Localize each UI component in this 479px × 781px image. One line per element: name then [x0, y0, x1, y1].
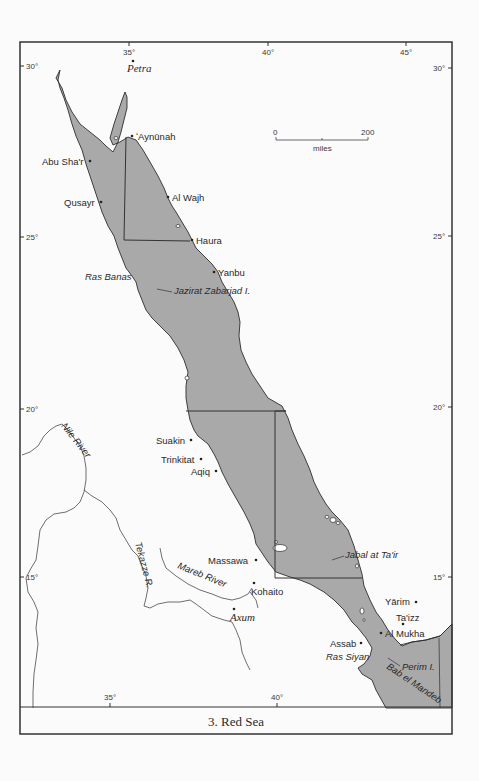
taizz-marker — [402, 623, 405, 626]
lat-tick-20-right: 20° — [433, 403, 445, 412]
lat-tick-30-right: 30° — [433, 64, 445, 73]
label-ras-banas: Ras Banas — [85, 271, 132, 282]
lat-tick-25-right: 25° — [433, 232, 445, 241]
label-al-mukha: Al Mukha — [385, 628, 425, 639]
label-yarim: Yārim — [385, 596, 410, 607]
island — [325, 516, 329, 519]
lat-tick-15-left: 15° — [26, 573, 38, 582]
lat-tick-30-left: 30° — [26, 62, 38, 71]
island — [114, 137, 118, 140]
lon-tick-40-bottom: 40° — [271, 693, 283, 702]
axum-marker — [233, 608, 236, 611]
label-petra: Petra — [126, 62, 152, 74]
assab-marker — [360, 642, 363, 645]
island — [363, 619, 365, 622]
scale-unit: miles — [313, 144, 332, 153]
lat-tick-15-right: 15° — [433, 573, 445, 582]
label-al-wajh: Al Wajh — [172, 192, 204, 203]
island — [356, 564, 359, 568]
lon-tick-35-bottom: 35° — [104, 693, 116, 702]
nile-river — [22, 424, 86, 708]
map-caption: 3. Red Sea — [208, 714, 264, 729]
lon-tick-40-top: 40° — [262, 48, 274, 57]
island — [330, 518, 336, 523]
lon-tick-45-top: 45° — [400, 48, 412, 57]
massawa-marker — [255, 559, 258, 562]
aynunah-marker — [131, 135, 134, 138]
label-qusayr: Qusayr — [64, 197, 95, 208]
island — [360, 608, 364, 614]
haura-marker — [191, 239, 194, 242]
label-nile-river: Nile River — [59, 420, 94, 460]
scale-start: 0 — [273, 128, 278, 137]
red-sea-map: 35° 40° 45° 35° 40° 30° 25° 20° 15° 30° … — [0, 0, 479, 781]
qusayr-marker — [100, 201, 103, 204]
kohaito-marker — [253, 582, 256, 585]
label-abu-shar: Abu Sha'r — [42, 156, 83, 167]
al-mukha-marker — [380, 632, 383, 635]
abu-shar-marker — [89, 160, 92, 163]
label-axum: Axum — [229, 611, 255, 623]
yarim-marker — [415, 601, 418, 604]
label-yanbu: Yanbu — [218, 267, 245, 278]
island — [176, 225, 180, 228]
label-tekazze-river: Tekazze R. — [133, 541, 156, 589]
lat-tick-25-left: 25° — [26, 233, 38, 242]
label-suakin: Suakin — [156, 435, 185, 446]
trinkitat-marker — [200, 458, 203, 461]
label-aqiq: Aqiq — [191, 466, 210, 477]
island — [185, 376, 189, 380]
label-aynunah: ʻAynūnah — [136, 131, 175, 142]
suakin-marker — [190, 439, 193, 442]
label-assab: Assab — [330, 638, 356, 649]
lat-tick-20-left: 20° — [26, 405, 38, 414]
label-taizz: Ta'izz — [396, 612, 420, 623]
al-wajh-marker — [167, 196, 170, 199]
aqiq-marker — [215, 470, 218, 473]
label-kohaito: Kohaito — [251, 586, 283, 597]
label-ras-siyan: Ras Siyan — [326, 651, 369, 662]
lon-tick-35-top: 35° — [123, 48, 135, 57]
island — [336, 522, 340, 525]
scale-end: 200 — [361, 128, 375, 137]
label-massawa: Massawa — [208, 555, 249, 566]
label-jabal-at-tair: Jabal at Ta'ir — [344, 549, 399, 560]
label-haura: Haura — [196, 235, 223, 246]
label-trinkitat: Trinkitat — [161, 454, 195, 465]
scale-bar: 0 200 miles — [273, 128, 375, 153]
yanbu-marker — [213, 271, 216, 274]
label-jazirat-zabarjad: Jazirat Zabarjad I. — [173, 285, 250, 296]
